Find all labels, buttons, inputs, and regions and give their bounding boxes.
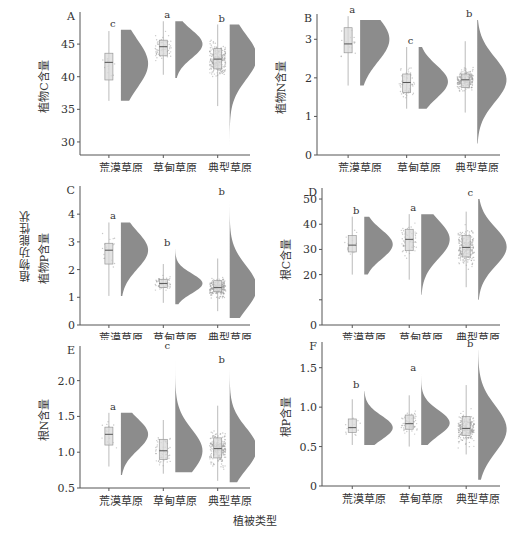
y-tick-label: 0.5 (300, 441, 318, 454)
x-tick-label: 草甸草原 (397, 162, 441, 172)
y-tick-label: 1 (68, 291, 75, 304)
x-tick-label: 荒漠草原 (342, 332, 386, 340)
box (344, 28, 352, 53)
density-half-violin (421, 214, 449, 295)
panel-letter: E (67, 344, 75, 357)
panel-f-root-p: F00.51.01.5根P含量荒漠草原b草甸草原a典型草原b (255, 340, 509, 512)
panel-a-plant-c: A30354045植物C含量荒漠草原c草甸草原a典型草原b (0, 0, 255, 172)
x-tick-label: 典型草原 (208, 331, 252, 340)
significance-letter: a (349, 4, 355, 15)
x-tick-label: 典型草原 (456, 331, 500, 340)
density-half-violin (477, 20, 506, 143)
x-tick-label: 草甸草原 (399, 332, 443, 340)
significance-letter: c (110, 18, 116, 29)
y-tick-label: 3 (305, 33, 312, 46)
x-tick-label: 荒漠草原 (338, 162, 382, 172)
box (403, 74, 411, 93)
box (461, 74, 469, 88)
y-tick-label: 35 (61, 103, 75, 116)
y-tick-label: 40 (61, 71, 75, 84)
x-tick-label: 荒漠草原 (99, 162, 143, 172)
y-axis-title: 根P含量 (279, 397, 293, 437)
y-tick-label: 20 (303, 269, 317, 282)
y-axis-title: 植物P含量 (37, 233, 51, 284)
box (462, 236, 470, 257)
y-tick-label: 30 (61, 136, 75, 149)
y-tick-label: 2.0 (58, 375, 76, 388)
panel-e-root-n: E0.51.01.52.0根N含量荒漠草原a草甸草原c典型草原b (0, 340, 255, 512)
y-tick-label: 50 (303, 193, 317, 206)
panel-letter: C (67, 184, 75, 197)
x-tick-label: 典型草原 (455, 161, 499, 172)
x-tick-label: 荒漠草原 (99, 332, 143, 340)
x-tick-label: 典型草原 (208, 494, 252, 508)
density-half-violin (175, 352, 202, 472)
density-half-violin (478, 350, 506, 479)
box (159, 40, 167, 56)
density-half-violin (230, 198, 255, 319)
significance-letter: b (164, 237, 170, 248)
panel-letter: A (66, 10, 76, 23)
y-tick-label: 30 (303, 243, 317, 256)
y-tick-label: 0 (68, 319, 75, 332)
y-tick-label: 1.0 (300, 401, 318, 414)
density-half-violin (478, 199, 506, 300)
density-half-violin (421, 374, 449, 445)
y-tick-label: 0 (310, 480, 317, 493)
significance-letter: c (467, 187, 473, 198)
y-tick-label: 0 (305, 149, 312, 162)
density-half-violin (364, 217, 392, 275)
box (105, 243, 113, 264)
significance-letter: a (410, 362, 416, 373)
y-axis-title: 植物N含量 (274, 61, 288, 115)
significance-letter: a (110, 401, 116, 412)
significance-letter: b (353, 379, 359, 390)
y-tick-label: 0.5 (58, 482, 76, 495)
y-axis-title: 根C含量 (279, 239, 293, 280)
box (405, 415, 413, 429)
y-tick-label: 1.5 (300, 362, 318, 375)
y-tick-label: 45 (61, 38, 75, 51)
x-tick-label: 草甸草原 (153, 332, 197, 340)
significance-letter: a (410, 202, 416, 213)
x-axis-title: 植被类型 (233, 512, 277, 528)
box (214, 281, 222, 292)
y-tick-label: 2 (305, 72, 312, 85)
significance-letter: b (466, 8, 472, 19)
box (214, 438, 222, 458)
box (105, 53, 113, 80)
box (462, 417, 470, 436)
y-tick-label: 0 (310, 319, 317, 332)
panel-b-plant-n: B0123植物N含量荒漠草原a草甸草原c典型草原b (255, 0, 509, 172)
significance-letter: a (164, 9, 170, 20)
y-axis-title: 根N含量 (37, 399, 51, 442)
y-axis-title: 植物C含量 (37, 60, 51, 112)
significance-letter: c (164, 340, 170, 351)
significance-letter: b (353, 205, 359, 216)
density-half-violin (360, 20, 389, 86)
box (159, 439, 167, 459)
box (405, 229, 413, 250)
panel-letter: B (304, 12, 312, 25)
x-tick-label: 荒漠草原 (99, 495, 143, 508)
panel-d-root-c: D020304050根C含量荒漠草原b草甸草原a典型草原c (255, 172, 509, 340)
density-half-violin (419, 47, 448, 109)
y-tick-label: 4 (68, 208, 75, 221)
significance-letter: b (218, 13, 224, 24)
x-tick-label: 草甸草原 (153, 162, 197, 172)
x-tick-label: 典型草原 (456, 492, 500, 506)
significance-letter: c (408, 35, 414, 46)
box (348, 236, 356, 252)
box (105, 427, 113, 445)
x-tick-label: 草甸草原 (399, 493, 443, 506)
y-tick-label: 2 (68, 264, 75, 277)
x-tick-label: 草甸草原 (153, 495, 197, 508)
significance-letter: b (218, 186, 224, 197)
significance-letter: a (110, 210, 116, 221)
density-half-violin (230, 366, 255, 482)
density-half-violin (121, 222, 148, 295)
y-tick-label: 1.0 (58, 446, 76, 459)
y-tick-label: 3 (68, 236, 75, 249)
panel-c-plant-p: C01234植物P含量荒漠草原a草甸草原b典型草原b (0, 172, 255, 340)
y-tick-label: 1 (305, 110, 312, 123)
